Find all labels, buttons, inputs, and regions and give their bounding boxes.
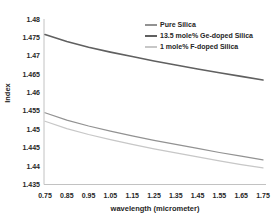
x-axis-ticks: 0.750.850.951.051.151.251.351.451.551.65…	[38, 192, 270, 199]
x-tick-label: 1.15	[125, 192, 139, 199]
y-tick-label: 1.445	[22, 144, 40, 151]
y-tick-label: 1.435	[22, 181, 40, 188]
x-tick-label: 0.95	[82, 192, 96, 199]
x-tick-label: 1.05	[104, 192, 118, 199]
legend-line-swatch	[145, 46, 157, 48]
y-tick-label: 1.465	[22, 71, 40, 78]
legend-line-swatch	[145, 24, 157, 26]
y-tick-label: 1.47	[26, 52, 40, 59]
y-tick-label: 1.44	[26, 163, 40, 170]
y-axis-title: Index	[3, 82, 12, 102]
y-tick-label: 1.48	[26, 16, 40, 23]
series-line	[45, 113, 263, 160]
series-lines	[45, 34, 263, 168]
x-tick-label: 1.65	[234, 192, 248, 199]
legend-label: 13.5 mole% Ge-doped Silica	[160, 30, 253, 41]
x-axis-title: wavelength (micrometer)	[110, 204, 200, 213]
y-tick-label: 1.46	[26, 89, 40, 96]
x-tick-label: 1.55	[213, 192, 227, 199]
x-tick-label: 1.35	[169, 192, 183, 199]
y-axis-ticks: 1.4351.441.4451.451.4551.461.4651.471.47…	[22, 16, 40, 189]
x-tick-label: 0.85	[60, 192, 74, 199]
chart-container: 1.4351.441.4451.451.4551.461.4651.471.47…	[0, 0, 277, 221]
legend-item: Pure Silica	[145, 19, 253, 30]
x-tick-label: 1.75	[256, 192, 270, 199]
y-tick-label: 1.45	[26, 126, 40, 133]
x-tick-label: 1.25	[147, 192, 161, 199]
y-tick-label: 1.455	[22, 107, 40, 114]
legend: Pure Silica13.5 mole% Ge-doped Silica1 m…	[145, 19, 253, 52]
legend-label: Pure Silica	[160, 19, 196, 30]
series-line	[45, 121, 263, 168]
legend-item: 1 mole% F-doped Silica	[145, 41, 253, 52]
legend-line-swatch	[145, 35, 157, 37]
x-tick-label: 0.75	[38, 192, 52, 199]
legend-item: 13.5 mole% Ge-doped Silica	[145, 30, 253, 41]
y-tick-label: 1.475	[22, 34, 40, 41]
x-tick-label: 1.45	[191, 192, 205, 199]
legend-label: 1 mole% F-doped Silica	[160, 41, 238, 52]
